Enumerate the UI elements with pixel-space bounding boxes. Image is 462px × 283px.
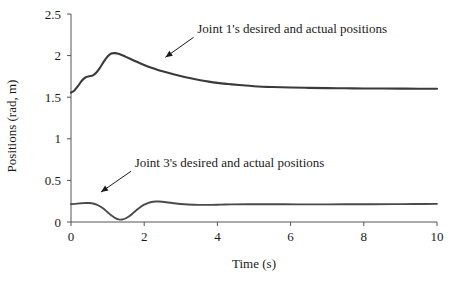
y-axis-ticks: 00.511.522.5	[45, 7, 71, 230]
x-tick-label: 6	[287, 229, 294, 244]
y-axis-title: Positions (rad, m)	[4, 80, 19, 173]
positions-line-chart: 00.511.522.5 0246810 Joint 1's desired a…	[0, 0, 462, 283]
x-axis-title: Time (s)	[232, 256, 276, 271]
annotation-label-1: Joint 1's desired and actual positions	[197, 21, 387, 36]
x-tick-label: 10	[431, 229, 444, 244]
annotation-arrow-head-2	[101, 186, 108, 192]
y-tick-label: 0	[55, 215, 62, 230]
y-tick-label: 1.5	[45, 90, 61, 105]
annotation-arrow-head-1	[165, 51, 172, 57]
y-tick-label: 2.5	[45, 7, 61, 22]
annotation-label-2: Joint 3's desired and actual positions	[135, 155, 325, 170]
series-line-2	[71, 201, 437, 219]
x-tick-label: 2	[141, 229, 148, 244]
x-tick-label: 4	[214, 229, 221, 244]
y-tick-label: 2	[55, 48, 62, 63]
x-tick-label: 0	[68, 229, 75, 244]
data-series-group	[71, 53, 437, 220]
y-tick-label: 1	[55, 131, 62, 146]
chart-figure: 00.511.522.5 0246810 Joint 1's desired a…	[0, 0, 462, 283]
x-tick-label: 8	[361, 229, 368, 244]
series-line-1	[71, 53, 437, 93]
annotations-group: Joint 1's desired and actual positionsJo…	[101, 21, 387, 192]
x-axis-ticks: 0246810	[68, 222, 444, 244]
y-tick-label: 0.5	[45, 173, 61, 188]
